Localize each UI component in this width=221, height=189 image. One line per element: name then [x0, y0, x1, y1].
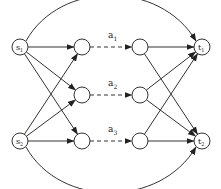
- node-u3: [74, 133, 90, 149]
- edge-v2-t1: [146, 52, 195, 90]
- arc-label-a3: a3: [108, 124, 117, 136]
- node-v3: [132, 133, 148, 149]
- edge-v2-t2: [146, 100, 195, 136]
- node-v2: [132, 87, 148, 103]
- diagram-canvas: s1s2t1t2 a1a2a3: [0, 0, 221, 189]
- edge-s2-u2: [26, 100, 75, 136]
- edge-s1-u2: [26, 52, 75, 90]
- arc-label-a2: a2: [108, 78, 117, 90]
- edge-s2-t2: [26, 147, 196, 189]
- node-u2: [74, 87, 90, 103]
- node-u1: [74, 39, 90, 55]
- arc-label-a1: a1: [108, 30, 117, 42]
- flow-network-diagram: s1s2t1t2 a1a2a3: [0, 0, 221, 189]
- node-v1: [132, 39, 148, 55]
